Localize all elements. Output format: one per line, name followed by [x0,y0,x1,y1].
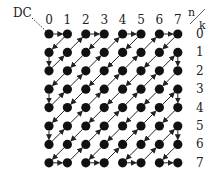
coefficient-dot-4-1 [63,103,72,112]
coefficient-dot-1-5 [136,48,145,57]
coefficient-dot-5-3 [100,121,109,130]
coefficient-dot-7-6 [155,158,164,167]
dc-label: DC [13,6,32,20]
scan-arrow [107,111,119,123]
coefficient-dot-5-2 [81,121,90,130]
coefficient-dot-1-7 [173,48,182,57]
scan-arrow [71,38,83,50]
coefficient-dot-2-1 [63,66,72,75]
scan-arrow [71,74,83,86]
scan-arrow [52,130,64,142]
coefficient-dot-7-5 [136,158,145,167]
coefficient-dot-5-5 [136,121,145,130]
scan-arrow [145,92,157,104]
scan-arrow [53,111,65,123]
coefficient-dot-5-1 [63,121,72,130]
scan-arrow [71,111,83,123]
coefficient-dot-6-3 [100,140,109,149]
scan-arrow [163,148,175,160]
coefficient-dot-3-2 [81,85,90,94]
coefficient-dot-4-2 [81,103,90,112]
zigzag-scan-diagram: DC n k 0123456701234567 [0,0,214,183]
col-label-0: 0 [45,13,53,27]
scan-arrow [89,111,101,123]
col-label-7: 7 [174,13,182,27]
scan-arrow [107,74,119,86]
scan-arrow [53,148,65,160]
coefficient-dot-3-0 [44,85,53,94]
scan-arrow [71,56,83,68]
scan-arrow [163,111,175,123]
coefficient-dot-4-6 [155,103,164,112]
row-label-2: 2 [196,64,204,78]
scan-arrow [89,130,101,142]
coefficient-dot-4-3 [100,103,109,112]
coefficient-dot-2-3 [100,66,109,75]
coefficient-dot-7-0 [44,158,53,167]
coefficient-dot-4-0 [44,103,53,112]
scan-arrow [163,37,175,49]
scan-arrow [144,38,156,50]
coefficient-dot-0-3 [100,29,109,38]
scan-arrow [126,130,138,142]
coefficient-dot-7-3 [100,158,109,167]
scan-arrow [163,93,175,105]
coefficient-dot-4-5 [136,103,145,112]
scan-arrow [126,93,138,105]
scan-arrow [163,74,175,86]
coefficient-dot-6-0 [44,140,53,149]
coefficient-dot-4-7 [173,103,182,112]
col-axis-label: n [188,6,195,19]
coefficient-dot-1-3 [100,48,109,57]
col-label-3: 3 [100,13,108,27]
scan-arrow [52,93,64,105]
coefficient-dot-0-7 [173,29,182,38]
scan-arrow [144,74,156,86]
scan-arrow [107,148,119,160]
scan-arrow [126,111,138,123]
coefficient-dot-3-1 [63,85,72,94]
row-label-4: 4 [196,101,204,115]
coefficient-dot-5-4 [118,121,127,130]
coefficient-dot-2-2 [81,66,90,75]
scan-arrow [108,56,120,68]
coefficient-dot-2-5 [136,66,145,75]
scan-arrow [71,92,83,104]
coefficient-dot-3-6 [155,85,164,94]
scan-arrow [89,56,101,68]
scan-arrow [52,56,64,68]
scan-arrow [108,129,120,141]
coefficient-dot-6-4 [118,140,127,149]
coefficient-dot-6-6 [155,140,164,149]
scan-arrow [89,74,101,86]
coefficient-dot-1-4 [118,48,127,57]
scan-arrow [89,148,101,160]
coefficient-dot-6-7 [173,140,182,149]
coefficient-dot-5-6 [155,121,164,130]
coefficient-dot-6-2 [81,140,90,149]
scan-arrow [144,148,156,160]
coefficient-dot-0-4 [118,29,127,38]
coefficient-dot-3-3 [100,85,109,94]
scan-arrow [89,37,101,49]
scan-arrow [145,56,157,68]
scan-arrow [107,38,119,50]
coefficient-dot-0-6 [155,29,164,38]
row-label-7: 7 [196,156,204,170]
col-label-6: 6 [156,13,164,27]
coefficient-dot-7-4 [118,158,127,167]
dc-pointer [32,18,46,31]
row-label-1: 1 [196,45,204,59]
coefficient-dot-1-6 [155,48,164,57]
row-label-5: 5 [196,119,204,133]
scan-arrow [163,130,175,142]
scan-arrow [89,93,101,105]
scan-arrow [71,148,83,160]
scan-arrow [108,92,120,104]
scan-arrow [71,129,83,141]
scan-arrow [144,111,156,123]
coefficient-dot-4-4 [118,103,127,112]
coefficient-dot-5-0 [44,121,53,130]
scan-arrow [145,129,157,141]
coefficient-dot-7-2 [81,158,90,167]
